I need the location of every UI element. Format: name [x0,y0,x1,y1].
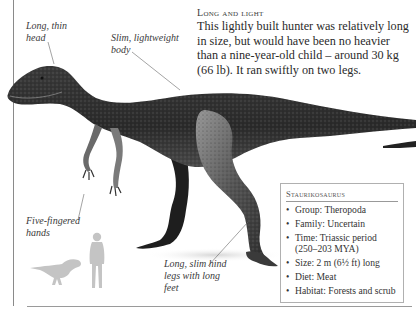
near-arm [110,128,123,188]
far-arm [83,124,102,172]
fact-item-group: Group: Theropoda [286,204,399,215]
label-hands: Five-fingered hands [26,215,81,239]
dino-eye [41,77,44,80]
fact-item-diet: Diet: Meat [286,271,399,282]
leader-body [132,52,180,90]
dinosaur-scale-silhouette [30,259,81,285]
fact-box: Staurikosaurus Group: Theropoda Family: … [280,183,404,303]
fact-item-size: Size: 2 m (6½ ft) long [286,257,399,268]
intro-body: This lightly built hunter was relatively… [197,19,412,77]
tail-tip-fragment [383,141,416,148]
fact-item-time: Time: Triassic period (250–203 MYA) [286,232,399,254]
intro-title: Long and light [197,6,412,19]
human-scale-silhouette [90,233,105,288]
label-head: Long, thin head [26,20,76,44]
label-legs: Long, slim hind legs with long feet [164,258,234,294]
leader-head [48,42,54,64]
fact-item-family: Family: Uncertain [286,218,399,229]
fact-item-habitat: Habitat: Forests and scrub [286,285,399,296]
fact-list: Group: Theropoda Family: Uncertain Time:… [281,204,403,296]
intro-block: Long and light This lightly built hunter… [197,6,412,77]
fact-box-title: Staurikosaurus [286,189,398,202]
label-body: Slim, lightweight body [111,32,196,56]
